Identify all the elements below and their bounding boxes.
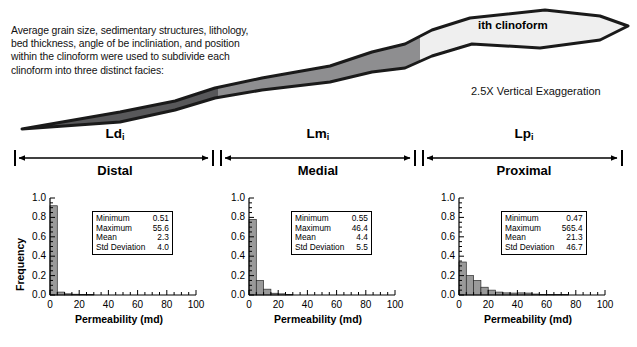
x-axis-tick-label: 100 [383, 299, 407, 310]
histogram-bar [256, 280, 263, 295]
histogram-bars-proximal [459, 262, 569, 295]
y-axis-tick-label: 1.0 [22, 192, 46, 203]
y-axis-tick-label: 0.2 [221, 270, 245, 281]
histogram-bars-medial [249, 219, 293, 295]
x-axis-tick-label: 20 [266, 299, 290, 310]
statistics-row: Std Deviation4.0 [96, 243, 169, 253]
x-axis-title: Permeability (md) [75, 313, 163, 325]
statistics-value: 4.0 [157, 243, 169, 253]
x-axis-tick-label: 60 [126, 299, 150, 310]
histogram-bar [264, 289, 271, 295]
facies-name-distal: Distal [75, 163, 155, 178]
histogram-bars-distal [50, 206, 94, 295]
statistics-key: Std Deviation [505, 243, 566, 253]
histogram-bar [481, 287, 488, 295]
x-axis-tick-label: 60 [535, 299, 559, 310]
statistics-key: Std Deviation [295, 243, 356, 253]
x-axis-tick-label: 40 [96, 299, 120, 310]
x-axis-tick-label: 40 [505, 299, 529, 310]
x-axis-title: Permeability (md) [484, 313, 572, 325]
x-axis-tick-label: 60 [325, 299, 349, 310]
clinoform-title-label: ith clinoform [478, 19, 548, 31]
facies-code-proximal-text: Lp [514, 126, 531, 141]
x-axis-tick-label: 40 [295, 299, 319, 310]
x-axis-tick-label: 80 [354, 299, 378, 310]
statistics-box-medial: Minimum0.55Maximum46.4Mean4.4Std Deviati… [291, 211, 372, 255]
histogram-bar [474, 280, 481, 295]
histogram-panel-distal: 0.00.20.40.60.81.0020406080100Permeabili… [4, 188, 210, 347]
y-axis-tick-label: 1.0 [221, 192, 245, 203]
y-axis-tick-label: 0.8 [22, 211, 46, 222]
facies-code-medial-text: Lm [307, 126, 327, 141]
x-axis-tick-label: 100 [184, 299, 208, 310]
histogram-bar [249, 219, 256, 295]
x-axis-title: Permeability (md) [274, 313, 362, 325]
facies-code-distal-sub: i [122, 132, 125, 142]
histogram-panel-proximal: 0.00.20.40.60.81.0020406080100Permeabili… [425, 188, 631, 347]
y-axis-tick-label: 0.4 [221, 250, 245, 261]
facies-code-proximal-sub: i [531, 132, 534, 142]
x-axis-tick-label: 20 [67, 299, 91, 310]
statistics-row: Std Deviation46.7 [505, 243, 583, 253]
x-axis-tick-label: 0 [38, 299, 62, 310]
statistics-row: Std Deviation5.5 [295, 243, 368, 253]
vertical-exaggeration-label: 2.5X Vertical Exaggeration [471, 85, 601, 97]
facies-code-distal: Ldi [75, 126, 155, 142]
facies-code-proximal: Lpi [484, 126, 564, 142]
x-axis-tick-label: 100 [593, 299, 617, 310]
y-axis-tick-label: 0.6 [431, 231, 455, 242]
y-axis-tick-label: 0.6 [221, 231, 245, 242]
y-axis-title: Frequency [14, 238, 26, 291]
y-axis-tick-label: 0.4 [431, 250, 455, 261]
y-axis-tick-label: 1.0 [431, 192, 455, 203]
x-axis-tick-label: 20 [476, 299, 500, 310]
clinoform-facies-figure: Average grain size, sedimentary structur… [0, 0, 637, 347]
histogram-bar [50, 206, 57, 295]
x-axis-tick-label: 80 [564, 299, 588, 310]
facies-code-medial: Lmi [278, 126, 358, 142]
facies-name-proximal: Proximal [484, 163, 564, 178]
x-axis-tick-label: 0 [237, 299, 261, 310]
y-axis-tick-label: 0.2 [431, 270, 455, 281]
histogram-bar [466, 276, 473, 295]
statistics-box-proximal: Minimum0.47Maximum565.4Mean21.3Std Devia… [501, 211, 587, 255]
statistics-value: 46.7 [566, 243, 582, 253]
histogram-bar [488, 290, 495, 295]
y-axis-tick-label: 0.8 [221, 211, 245, 222]
facies-code-distal-text: Ld [105, 126, 122, 141]
x-axis-tick-label: 80 [155, 299, 179, 310]
y-axis-tick-label: 0.8 [431, 211, 455, 222]
x-axis-tick-label: 0 [447, 299, 471, 310]
histogram-panel-medial: 0.00.20.40.60.81.0020406080100Permeabili… [215, 188, 421, 347]
facies-name-medial: Medial [278, 163, 358, 178]
statistics-key: Std Deviation [96, 243, 157, 253]
facies-code-medial-sub: i [327, 132, 330, 142]
statistics-box-distal: Minimum0.51Maximum55.6Mean2.3Std Deviati… [92, 211, 173, 255]
statistics-value: 5.5 [356, 243, 368, 253]
